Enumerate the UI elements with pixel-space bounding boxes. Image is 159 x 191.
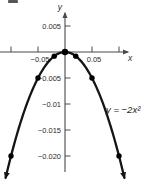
x-tick-label: 0.05 bbox=[87, 55, 102, 64]
x-axis-label: x bbox=[127, 53, 133, 63]
y-tick-label: 0.005 bbox=[42, 22, 61, 31]
data-point-dot bbox=[73, 53, 78, 58]
data-point-dot bbox=[35, 75, 40, 80]
x-tick-label: −0.05 bbox=[31, 55, 50, 64]
figure-root: −0.050.05 0.005−0.005−0.01−0.015−0.020 y… bbox=[0, 0, 159, 191]
y-axis-ticks: 0.005−0.005−0.01−0.015−0.020 bbox=[38, 22, 71, 161]
data-point-dot bbox=[8, 153, 13, 158]
y-tick-label: −0.005 bbox=[38, 74, 61, 83]
data-point-dot bbox=[116, 153, 121, 158]
data-point-dot bbox=[52, 53, 57, 58]
y-axis-label: y bbox=[57, 2, 63, 12]
equation-label: y = −2x² bbox=[105, 104, 141, 115]
data-point-dot bbox=[62, 49, 68, 55]
crop-artifact-mark bbox=[8, 0, 18, 3]
y-tick-label: −0.020 bbox=[38, 152, 61, 161]
y-tick-label: −0.015 bbox=[38, 126, 61, 135]
y-tick-label: −0.01 bbox=[42, 100, 61, 109]
data-point-dot bbox=[89, 75, 94, 80]
parabola-chart-svg: −0.050.05 0.005−0.005−0.01−0.015−0.020 y… bbox=[0, 0, 159, 191]
